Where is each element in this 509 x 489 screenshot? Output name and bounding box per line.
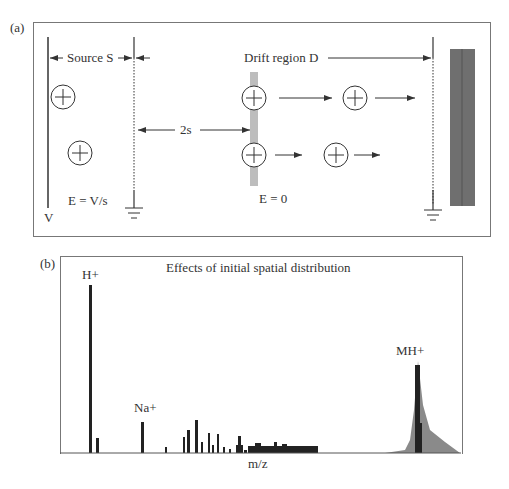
mh-envelope: [385, 361, 460, 453]
ion-icon: [51, 85, 367, 167]
ground-icon-source: [125, 208, 143, 218]
spectrum-plot: [0, 240, 509, 489]
voltage-label: V: [44, 210, 53, 226]
peak-label-mh: MH+: [396, 343, 424, 359]
drift-region-label: Drift region D: [244, 50, 318, 66]
peak-label-h: H+: [82, 267, 99, 283]
peak-label-na: Na+: [134, 400, 157, 416]
x-axis-label: m/z: [248, 456, 268, 472]
spectrum-bars: [89, 285, 422, 453]
gap-label: 2s: [180, 122, 192, 138]
source-field-label: E = V/s: [68, 193, 108, 209]
source-region-label: Source S: [67, 50, 114, 66]
ground-icon-detector: [424, 210, 442, 220]
drift-field-label: E = 0: [259, 191, 287, 207]
